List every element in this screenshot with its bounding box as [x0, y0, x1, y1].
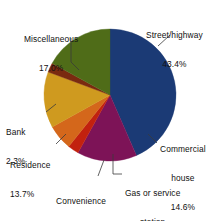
slice-label-commercial-house-name1: Commercial	[160, 145, 206, 155]
pie-chart: Miscellaneous 17.0% Street/highway 43.4%…	[0, 0, 222, 221]
slice-label-miscellaneous-value: 17.0%	[24, 64, 78, 74]
slice-label-street-highway-name: Street/highway	[146, 31, 203, 41]
slice-label-convenience-store: Convenience store 6.2%	[56, 178, 106, 221]
slice-label-miscellaneous-name: Miscellaneous	[24, 35, 78, 45]
slice-label-residence-value: 13.7%	[10, 190, 50, 200]
slice-label-miscellaneous: Miscellaneous 17.0%	[24, 16, 78, 93]
leader-line-convenience	[98, 160, 104, 176]
slice-label-bank: Bank 2.3%	[6, 109, 26, 186]
slice-label-bank-name: Bank	[6, 128, 26, 138]
slice-label-gas-or-service-station-name1: Gas or service	[125, 189, 180, 199]
slice-label-gas-or-service-station-name2: station	[125, 218, 180, 221]
slice-label-street-highway-value: 43.4%	[146, 60, 203, 70]
slice-label-street-highway: Street/highway 43.4%	[146, 12, 203, 89]
slice-label-convenience-store-name1: Convenience	[56, 197, 106, 207]
slice-label-bank-value: 2.3%	[6, 157, 26, 167]
slice-label-gas-or-service-station: Gas or service station 2.7%	[125, 170, 180, 221]
